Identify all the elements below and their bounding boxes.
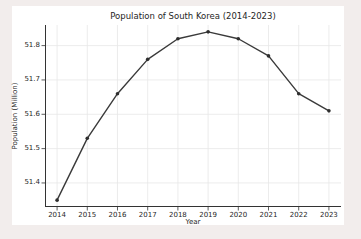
x-tick-label: 2015 [73, 212, 101, 219]
y-tick-label: 51.5 [14, 145, 40, 152]
x-tick-label: 2021 [255, 212, 283, 219]
data-point-marker [267, 54, 271, 58]
data-point-marker [176, 37, 180, 41]
screenshot-root: Population of South Korea (2014-2023) Po… [0, 0, 361, 239]
chart-title: Population of South Korea (2014-2023) [45, 12, 341, 21]
data-point-marker [237, 37, 241, 41]
x-axis-label: Year [45, 218, 341, 226]
data-point-marker [85, 137, 89, 141]
data-point-marker [146, 58, 150, 62]
line-plot [45, 25, 341, 207]
x-tick-label: 2016 [103, 212, 131, 219]
x-tick-label: 2022 [285, 212, 313, 219]
y-tick-label: 51.6 [14, 111, 40, 118]
x-tick-label: 2017 [134, 212, 162, 219]
y-tick-label: 51.7 [14, 76, 40, 83]
y-tick-label: 51.4 [14, 179, 40, 186]
x-tick-label: 2018 [164, 212, 192, 219]
x-tick-label: 2014 [43, 212, 71, 219]
x-tick-label: 2019 [194, 212, 222, 219]
data-point-marker [116, 92, 120, 96]
x-tick-label: 2023 [315, 212, 343, 219]
data-point-marker [327, 109, 331, 113]
population-series-line [57, 32, 329, 200]
x-tick-label: 2020 [224, 212, 252, 219]
data-point-marker [55, 198, 59, 202]
data-point-marker [206, 30, 210, 34]
data-point-marker [297, 92, 301, 96]
y-tick-label: 51.8 [14, 42, 40, 49]
